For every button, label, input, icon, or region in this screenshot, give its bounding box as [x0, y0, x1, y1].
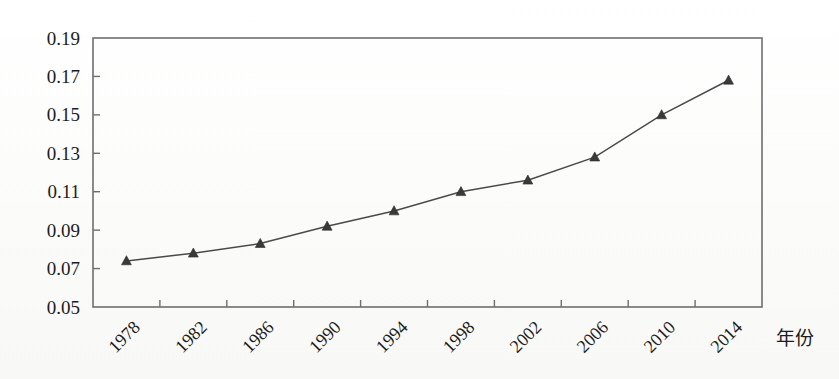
y-tick-label: 0.09 — [47, 220, 80, 241]
x-tick-label: 1978 — [104, 317, 144, 357]
data-point-marker — [657, 110, 667, 119]
data-point-marker — [724, 75, 734, 84]
series-line — [126, 80, 728, 261]
y-axis: 0.050.070.090.110.130.150.170.19 — [47, 28, 100, 318]
y-tick-label: 0.15 — [47, 104, 80, 125]
y-tick-label: 0.11 — [47, 181, 80, 202]
x-tick-label: 2002 — [506, 317, 546, 357]
y-tick-label: 0.13 — [47, 143, 80, 164]
y-tick-label: 0.07 — [47, 258, 80, 279]
x-tick-label: 2006 — [573, 317, 613, 357]
x-tick-label: 1990 — [305, 317, 345, 357]
x-tick-label: 1998 — [439, 317, 479, 357]
plot-frame — [93, 38, 762, 307]
x-tick-label: 2010 — [640, 317, 680, 357]
data-point-marker — [590, 152, 600, 161]
x-axis: 1978198219861990199419982002200620102014 — [104, 300, 746, 357]
x-tick-label: 1986 — [238, 317, 278, 357]
data-series — [122, 75, 734, 265]
y-tick-label: 0.19 — [47, 28, 80, 49]
x-tick-label: 1982 — [171, 317, 211, 357]
x-tick-label: 1994 — [372, 317, 412, 357]
y-tick-label: 0.17 — [47, 66, 80, 87]
y-tick-label: 0.05 — [47, 297, 80, 318]
x-axis-title: 年份 — [776, 327, 814, 349]
chart-page: 0.050.070.090.110.130.150.170.19 1978198… — [0, 0, 839, 379]
line-chart: 0.050.070.090.110.130.150.170.19 1978198… — [0, 0, 839, 379]
x-tick-label: 2014 — [707, 317, 747, 357]
series-markers — [122, 75, 734, 265]
